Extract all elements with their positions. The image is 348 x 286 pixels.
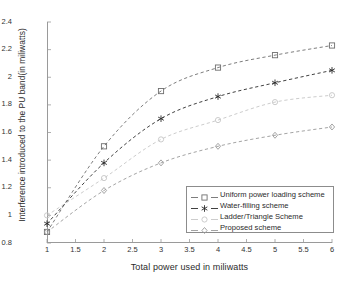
legend-marker-asterisk-icon (190, 200, 220, 211)
figure-canvas: 0.811.21.41.61.822.22.4 11.522.533.544.5… (0, 0, 348, 286)
y-tick-label: 1.4 (0, 156, 12, 164)
y-axis-title: Interference introduced to the PU band(i… (17, 5, 27, 245)
x-axis-title: Total power used in miliwatts (47, 262, 332, 272)
y-tick-label: 1.6 (0, 128, 12, 136)
x-tick-label: 5.5 (289, 246, 319, 254)
y-axis-title-wrapper: Interference introduced to the PU band(i… (17, 5, 31, 245)
legend-label: Ladder/Triangle Scheme (220, 211, 303, 222)
legend-label: Water-filling scheme (220, 200, 289, 211)
y-tick-label: 1 (0, 211, 12, 219)
x-tick-label: 6 (317, 246, 347, 254)
y-tick-label: 2.2 (0, 45, 12, 53)
legend-marker-square-icon (190, 189, 220, 200)
y-tick-label: 2 (0, 73, 12, 81)
legend-label: Proposed scheme (220, 222, 281, 233)
x-tick-label: 1 (32, 246, 62, 254)
x-tick-label: 3 (146, 246, 176, 254)
legend-item[interactable]: Uniform power loading scheme (187, 189, 333, 200)
y-tick-label: 1.8 (0, 100, 12, 108)
x-tick-label: 2 (89, 246, 119, 254)
legend-item[interactable]: Proposed scheme (187, 222, 333, 233)
chart-svg (0, 0, 348, 286)
x-tick-label: 2.5 (118, 246, 148, 254)
legend-box: Uniform power loading schemeWater-fillin… (186, 186, 334, 233)
legend-marker-circle-icon (190, 211, 220, 222)
y-tick-label: 0.8 (0, 239, 12, 247)
legend-item[interactable]: Water-filling scheme (187, 200, 333, 211)
x-tick-label: 4 (203, 246, 233, 254)
x-tick-label: 4.5 (232, 246, 262, 254)
legend-item[interactable]: Ladder/Triangle Scheme (187, 211, 333, 222)
x-tick-label: 1.5 (61, 246, 91, 254)
y-tick-label: 1.2 (0, 183, 12, 191)
y-tick-label: 2.4 (0, 18, 12, 26)
legend-label: Uniform power loading scheme (220, 189, 325, 200)
x-tick-label: 5 (260, 246, 290, 254)
x-tick-label: 3.5 (175, 246, 205, 254)
legend-marker-diamond-icon (190, 222, 220, 233)
